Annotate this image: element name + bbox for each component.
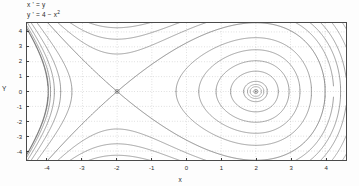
y-tick-label: 0 bbox=[6, 89, 22, 95]
equation-ydot: y ' = 4 − x2 bbox=[27, 9, 60, 19]
y-tick-label: -2 bbox=[6, 119, 22, 125]
x-tick-mark bbox=[186, 158, 187, 161]
y-tick-label: 3 bbox=[6, 43, 22, 49]
x-tick-label: 2 bbox=[249, 165, 263, 171]
x-tick-mark bbox=[116, 158, 117, 161]
x-tick-label: 0 bbox=[180, 165, 194, 171]
y-tick-mark bbox=[26, 76, 29, 77]
x-tick-label: -4 bbox=[40, 165, 54, 171]
phase-portrait-figure: x ' = y y ' = 4 − x2 Y x 43210-1-2-3-4-4… bbox=[0, 0, 359, 186]
x-tick-label: -1 bbox=[145, 165, 159, 171]
x-tick-label: -2 bbox=[110, 165, 124, 171]
x-tick-mark bbox=[326, 158, 327, 161]
y-tick-label: 4 bbox=[6, 28, 22, 34]
y-tick-mark bbox=[26, 61, 29, 62]
y-tick-label: 1 bbox=[6, 73, 22, 79]
y-tick-mark bbox=[26, 46, 29, 47]
plot-area[interactable] bbox=[26, 22, 347, 161]
y-tick-mark bbox=[26, 31, 29, 32]
x-tick-label: 4 bbox=[319, 165, 333, 171]
x-tick-label: -3 bbox=[75, 165, 89, 171]
y-tick-label: -1 bbox=[6, 104, 22, 110]
phase-plane-canvas bbox=[27, 23, 346, 160]
y-tick-label: -3 bbox=[6, 134, 22, 140]
y-tick-mark bbox=[26, 121, 29, 122]
y-tick-mark bbox=[26, 106, 29, 107]
x-tick-mark bbox=[256, 158, 257, 161]
x-tick-mark bbox=[81, 158, 82, 161]
y-tick-mark bbox=[26, 151, 29, 152]
equation-ydot-exponent: 2 bbox=[57, 10, 60, 15]
equation-xdot: x ' = y bbox=[27, 1, 60, 9]
y-tick-label: 2 bbox=[6, 58, 22, 64]
system-equations: x ' = y y ' = 4 − x2 bbox=[27, 1, 60, 18]
x-tick-label: 3 bbox=[284, 165, 298, 171]
x-axis-label: x bbox=[178, 176, 181, 183]
y-tick-mark bbox=[26, 136, 29, 137]
x-tick-label: 1 bbox=[214, 165, 228, 171]
x-tick-mark bbox=[46, 158, 47, 161]
x-tick-mark bbox=[291, 158, 292, 161]
equation-ydot-text: y ' = 4 − x bbox=[27, 11, 57, 18]
y-tick-mark bbox=[26, 91, 29, 92]
x-tick-mark bbox=[151, 158, 152, 161]
x-tick-mark bbox=[221, 158, 222, 161]
y-tick-label: -4 bbox=[6, 149, 22, 155]
